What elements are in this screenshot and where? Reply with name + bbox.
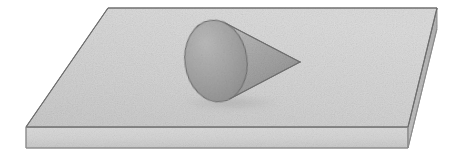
figure-canvas <box>0 0 460 155</box>
cone-on-slab-illustration <box>0 0 460 155</box>
cone-apex-point <box>299 61 301 63</box>
slab-front-face <box>26 127 408 148</box>
